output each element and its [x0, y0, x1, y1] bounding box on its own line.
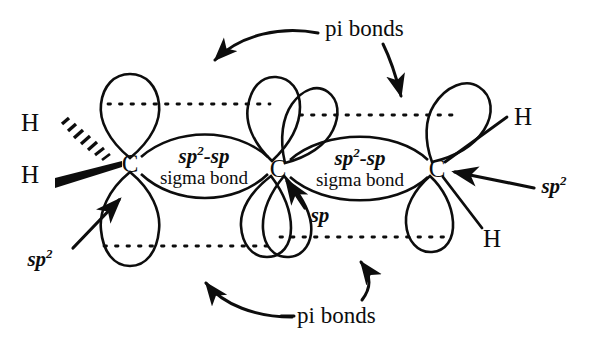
- arrow-pi-bonds-bottom-up: [361, 262, 369, 300]
- hash-2: [68, 124, 76, 131]
- sigma-orbital-base-right: sp: [335, 146, 354, 170]
- sigma-orbital-second-left: -sp: [204, 144, 230, 168]
- arrow-pi-bonds-top-left: [215, 31, 318, 60]
- sigma-bond-text-right: sigma bond: [316, 169, 404, 191]
- arrow-pi-bonds-top-right: [383, 44, 401, 96]
- sigma-orbital-base-left: sp: [179, 144, 198, 168]
- sp2-lower-left-sup: 2: [46, 246, 53, 261]
- hash-1: [62, 118, 69, 124]
- solid-wedge-bond: [55, 161, 122, 188]
- sp2-right-base: sp: [541, 174, 560, 198]
- sp2-lower-left-base: sp: [27, 247, 46, 271]
- hash-3: [74, 130, 83, 138]
- bond-right-carbon-to-upper-h: [445, 117, 507, 162]
- sp2-label-lower-left: sp2: [27, 247, 52, 270]
- sigma-bond-text-left: sigma bond: [160, 167, 248, 189]
- pi-bonds-top-label: pi bonds: [325, 17, 404, 40]
- p-lobe-left-top: [101, 74, 160, 158]
- p-lobe-left-bottom: [101, 172, 160, 266]
- left-carbon: C: [122, 151, 139, 176]
- hash-7: [102, 154, 110, 160]
- hash-5: [88, 142, 97, 150]
- sigma-bond-orbital-left: sp2-sp: [160, 144, 248, 167]
- sigma-bond-orbital-right: sp2-sp: [316, 146, 404, 169]
- sp2-label-right: sp2: [541, 174, 566, 197]
- sigma-bond-label-right: sp2-sp sigma bond: [316, 146, 404, 191]
- p-lobe-right-top: [427, 83, 491, 162]
- arrow-pi-bonds-bottom-left: [206, 283, 292, 317]
- hydrogen-lower-right: H: [483, 226, 501, 251]
- hash-4: [81, 136, 90, 144]
- hydrogen-lower-left: H: [21, 162, 39, 187]
- sp2-right-sup: 2: [560, 173, 567, 188]
- hydrogen-upper-right: H: [514, 104, 532, 129]
- right-carbon: C: [429, 156, 446, 181]
- sigma-bond-label-left: sp2-sp sigma bond: [160, 144, 248, 189]
- diagram-canvas: [0, 0, 592, 345]
- hash-6: [95, 148, 104, 155]
- sp-label-center: sp: [311, 205, 330, 226]
- center-carbon: C: [270, 156, 287, 181]
- hydrogen-upper-left: H: [21, 110, 39, 135]
- sigma-orbital-second-right: -sp: [360, 146, 386, 170]
- orbital-diagram-figure: C C C H H H H sp2-sp sigma bond sp2-sp s…: [0, 0, 592, 345]
- pi-bonds-bottom-label: pi bonds: [297, 304, 376, 327]
- arrow-sp2-lower-left: [73, 200, 119, 248]
- arrow-sp2-right: [455, 172, 534, 188]
